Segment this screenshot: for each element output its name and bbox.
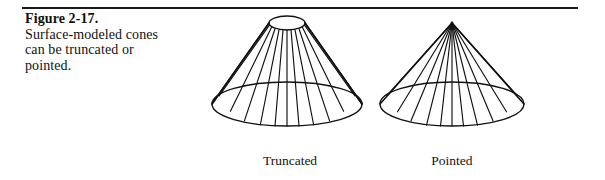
pointed-cone-label: Pointed cone — [392, 122, 512, 180]
figure-page: Figure 2-17. Surface-modeled cones can b… — [0, 0, 605, 180]
figure-caption: Figure 2-17. Surface-modeled cones can b… — [25, 11, 175, 73]
truncated-cone-top-ellipse — [269, 16, 305, 30]
truncated-cone-label-line1: Truncated — [230, 153, 350, 169]
pointed-cone-graphic — [380, 22, 524, 126]
pointed-cone-apex — [451, 22, 454, 25]
truncated-cone-graphic — [212, 16, 362, 126]
truncated-cone-label: Truncated cone — [230, 122, 350, 180]
figure-number: Figure 2-17. — [25, 11, 175, 27]
pointed-cone-label-line1: Pointed — [392, 153, 512, 169]
figure-caption-text: Surface-modeled cones can be truncated o… — [25, 27, 175, 74]
